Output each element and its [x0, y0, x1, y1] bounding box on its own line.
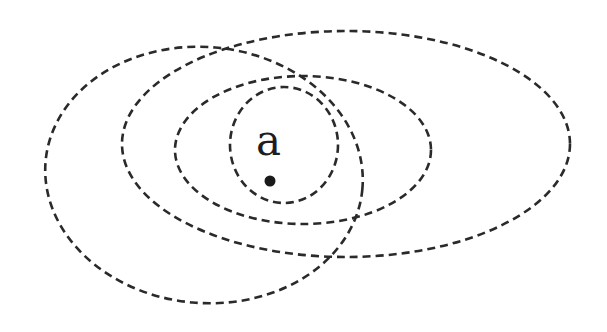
point-label: a [256, 116, 281, 165]
neighborhood-diagram: a [0, 0, 607, 332]
ellipse-medium [175, 76, 431, 224]
point-marker [265, 176, 276, 187]
diagram-canvas: a [0, 0, 607, 332]
ellipse-small [230, 87, 338, 203]
ellipse-left-tilted [34, 34, 373, 317]
ellipse-large [122, 31, 570, 257]
